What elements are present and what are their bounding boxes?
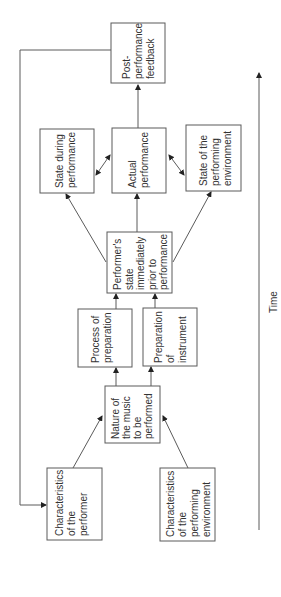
- arrow-char-env-to-music: [163, 416, 188, 468]
- node-state-of-environment: State of the performing environment: [186, 125, 241, 191]
- svg-text:State during performance: State during performance: [54, 131, 77, 188]
- arrow-actual-environment: [169, 155, 184, 175]
- node-state-during-performance: State during performance: [40, 129, 94, 193]
- arrow-state-to-during: [66, 194, 106, 262]
- node-actual-performance: Actual performance: [112, 128, 166, 193]
- flow-diagram: Time Post- performance feedback State du…: [0, 0, 281, 597]
- arrow-state-to-environment: [173, 192, 211, 262]
- node-nature-of-music: Nature of the music to be performed: [105, 386, 160, 443]
- node-characteristics-of-environment: Characteristics of the performing enviro…: [160, 468, 215, 541]
- node-performer-state: Performer's state immediately prior to p…: [107, 232, 172, 293]
- node-characteristics-of-performer: Characteristics of the performer: [47, 467, 102, 540]
- node-process-of-preparation: Process of preparation: [78, 309, 132, 367]
- time-axis-label: Time: [268, 291, 279, 313]
- arrow-actual-during: [96, 155, 110, 175]
- svg-text:Performer's state: Performer's state immediately prior to p…: [112, 233, 169, 290]
- node-preparation-of-instrument: Preparation of instrument: [143, 308, 197, 366]
- svg-text:Process of preparation: Process of preparation: [90, 312, 113, 363]
- svg-text:State of the performing: State of the performing environment: [198, 131, 233, 186]
- node-post-feedback: Post- performance feedback: [111, 20, 165, 83]
- feedback-loop-arrow: [20, 50, 111, 505]
- arrow-char-performer-to-music: [73, 416, 102, 468]
